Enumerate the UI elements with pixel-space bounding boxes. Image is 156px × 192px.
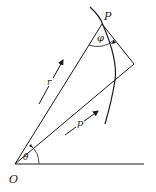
label-perpendicular: p (77, 117, 84, 128)
polar-diagram: O P r p θ φ (0, 0, 156, 192)
perpendicular-line (15, 64, 134, 164)
label-radius: r (47, 77, 52, 87)
curve (90, 7, 116, 124)
theta-arrow-icon (29, 144, 33, 148)
label-theta: θ (23, 152, 29, 162)
tangent-line (102, 24, 134, 64)
label-point: P (103, 10, 112, 23)
radius-line-op (15, 24, 102, 164)
label-phi: φ (97, 32, 104, 43)
label-origin: O (9, 173, 18, 186)
